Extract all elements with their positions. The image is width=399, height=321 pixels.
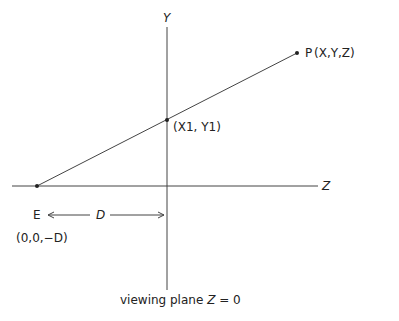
caption-variable: Z xyxy=(207,293,215,307)
target-coords: (X,Y,Z) xyxy=(314,47,355,59)
z-axis-label: Z xyxy=(322,180,330,192)
caption-text: viewing plane xyxy=(120,293,203,307)
distance-arrow xyxy=(48,212,164,218)
viewing-plane-caption: viewing plane Z = 0 xyxy=(120,294,241,306)
eye-point xyxy=(35,184,39,188)
caption-equation: = 0 xyxy=(219,293,241,307)
projection-point xyxy=(165,118,169,122)
distance-label: D xyxy=(96,209,105,221)
target-label: P xyxy=(305,47,312,59)
y-axis-label: Y xyxy=(163,12,170,24)
eye-coords: (0,0,−D) xyxy=(16,232,68,244)
projection-coords: (X1, Y1) xyxy=(173,121,221,133)
target-point xyxy=(295,51,299,55)
eye-label: E xyxy=(33,209,41,221)
